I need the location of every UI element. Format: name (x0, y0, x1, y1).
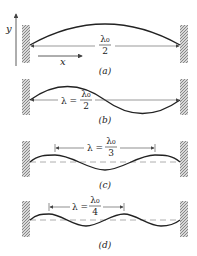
lambda-numerator: λ₀ (106, 136, 116, 146)
left-wall (22, 79, 30, 115)
left-wall (22, 141, 30, 177)
y-axis-label: y (5, 23, 12, 34)
lambda-denominator: 3 (108, 148, 114, 158)
panel-b: λ = λ₀ 2 (b) (22, 79, 188, 125)
caption-d: (d) (99, 240, 112, 250)
right-wall (180, 141, 188, 177)
lambda-numerator: λ₀ (81, 89, 91, 99)
lambda-prefix: λ = (72, 202, 88, 212)
left-wall (22, 201, 30, 237)
standing-wave-diagram: y λ₀ 2 x (a) λ = λ₀ 2 (b) (0, 0, 197, 256)
panel-d: λ = λ₀ 4 (d) (22, 195, 188, 250)
caption-a: (a) (99, 66, 112, 76)
wave-curve (30, 155, 180, 170)
panel-a: y λ₀ 2 x (a) (5, 14, 188, 76)
x-axis-label: x (60, 56, 66, 67)
right-wall (180, 25, 188, 63)
right-wall (180, 201, 188, 237)
caption-c: (c) (99, 180, 112, 190)
lambda-prefix: λ = (87, 143, 103, 153)
lambda-numerator: λ₀ (100, 34, 110, 44)
lambda-numerator: λ₀ (90, 195, 100, 205)
lambda-denominator: 2 (83, 101, 89, 111)
panel-c: λ = λ₀ 3 (c) (22, 136, 188, 190)
lambda-denominator: 4 (92, 207, 98, 217)
left-wall (22, 25, 30, 63)
lambda-prefix: λ = (61, 96, 77, 106)
right-wall (180, 79, 188, 115)
lambda-denominator: 2 (102, 46, 108, 56)
caption-b: (b) (99, 115, 112, 125)
